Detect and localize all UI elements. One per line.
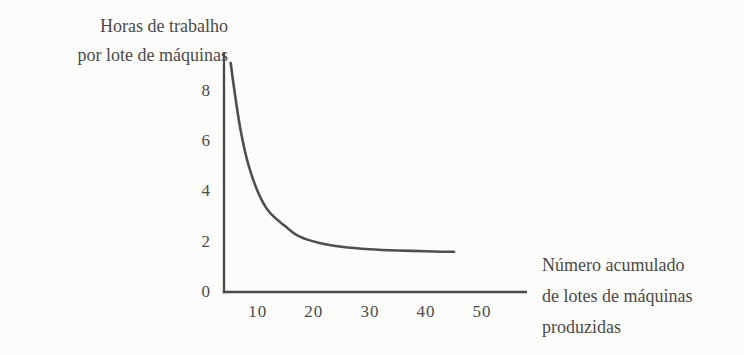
y-tick-label: 8	[176, 80, 210, 102]
x-tick-label: 30	[348, 301, 392, 323]
x-tick-label: 20	[292, 301, 336, 323]
x-axis-title-line-2: de lotes de máquinas	[542, 281, 692, 312]
learning-curve-figure: Horas de trabalho por lote de máquinas 0…	[0, 0, 744, 355]
x-axis-title: Número acumulado de lotes de máquinas pr…	[542, 250, 692, 343]
y-tick-label: 6	[176, 130, 210, 152]
y-tick-label: 2	[176, 231, 210, 253]
y-tick-label: 4	[176, 180, 210, 202]
y-tick-label: 0	[176, 281, 210, 303]
x-tick-label: 50	[460, 301, 504, 323]
x-tick-label: 40	[404, 301, 448, 323]
learning-curve-line	[231, 63, 454, 252]
x-tick-label: 10	[236, 301, 280, 323]
x-axis-title-line-1: Número acumulado	[542, 250, 692, 281]
x-axis-title-line-3: produzidas	[542, 312, 692, 343]
